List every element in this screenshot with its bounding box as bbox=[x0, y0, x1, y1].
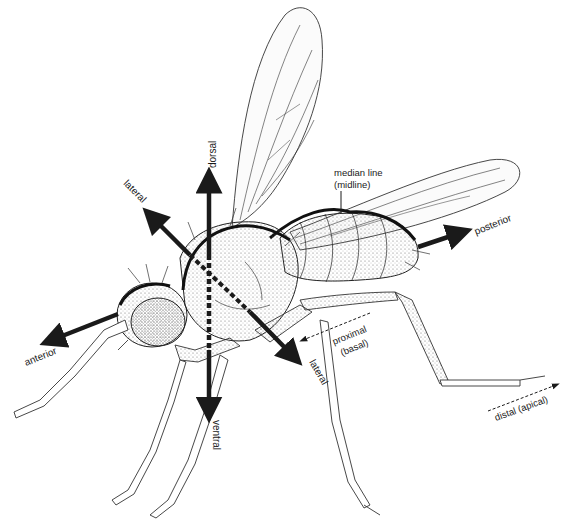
label-midline: (midline) bbox=[334, 179, 370, 190]
fly-orientation-diagram: dorsal ventral lateral lateral anterior … bbox=[0, 0, 567, 526]
lateral-arrow-upper bbox=[152, 217, 190, 255]
compound-eye bbox=[131, 298, 185, 346]
label-ventral: ventral bbox=[211, 420, 222, 450]
label-anterior: anterior bbox=[23, 345, 59, 368]
label-median-line: median line bbox=[334, 167, 383, 178]
posterior-arrow bbox=[418, 233, 460, 247]
label-dorsal: dorsal bbox=[207, 141, 218, 168]
label-posterior: posterior bbox=[473, 212, 514, 237]
head bbox=[112, 283, 187, 350]
label-lateral-upper: lateral bbox=[122, 178, 149, 205]
upper-wing bbox=[232, 8, 322, 228]
